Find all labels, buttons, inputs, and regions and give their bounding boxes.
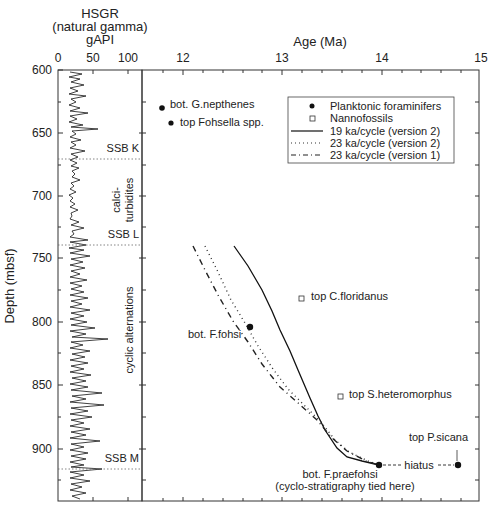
ssb-m-label: SSB M <box>105 452 139 464</box>
depth-tick-600: 600 <box>32 63 52 77</box>
marker-top-fohsella <box>168 120 173 125</box>
depth-tick-800: 800 <box>32 315 52 329</box>
age-axis-title: Age (Ma) <box>293 34 346 49</box>
depth-axis-title: Depth (mbsf) <box>2 248 17 323</box>
ssb-k-label: SSB K <box>107 142 140 154</box>
depth-tick-750: 750 <box>32 251 52 265</box>
label-cyclo-tied: (cyclo-stratigraphy tied here) <box>275 480 414 492</box>
label-g-nepthenes: bot. G.nepthenes <box>170 98 255 110</box>
label-top-c-floridanus: top C.floridanus <box>311 290 389 302</box>
label-bot-f-praefohsi: bot. F.praefohsi <box>302 468 377 480</box>
marker-top-s-heteromorphus <box>338 394 343 399</box>
curve-19ka-v2 <box>234 246 379 465</box>
marker-g-nepthenes <box>159 105 165 111</box>
marker-bot-f-fohsi <box>247 324 253 330</box>
age-depth-chart: HSGR (natural gamma) gAPI 0 50 100 Age (… <box>0 0 489 508</box>
age-tick-15: 15 <box>474 51 488 65</box>
depth-tick-900: 900 <box>32 442 52 456</box>
gr-log-trace <box>69 72 108 499</box>
legend-19ka-v2-label: 19 ka/cycle (version 2) <box>330 125 440 137</box>
label-top-p-sicana: top P.sicana <box>409 431 469 443</box>
depth-tick-650: 650 <box>32 126 52 140</box>
age-tick-13: 13 <box>275 51 289 65</box>
legend-23ka-v1-label: 23 ka/cycle (version 1) <box>330 149 440 161</box>
nannofossil-markers <box>299 296 343 399</box>
ssb-l-label: SSB L <box>108 228 139 240</box>
age-tick-14: 14 <box>375 51 389 65</box>
legend-nannofossil-icon <box>310 116 315 121</box>
legend-23ka-v2-label: 23 ka/cycle (version 2) <box>330 137 440 149</box>
legend: Planktonic foraminifers Nannofossils 19 … <box>288 97 454 163</box>
cyclic-alternations-label: cyclic alternations <box>123 286 135 373</box>
svg-text:calci-: calci- <box>110 187 122 213</box>
depth-tick-850: 850 <box>32 378 52 392</box>
depth-tick-700: 700 <box>32 189 52 203</box>
label-bot-f-fohsi: bot. F.fohsi <box>188 328 241 340</box>
hiatus-label: hiatus <box>404 459 434 471</box>
svg-text:turbidites: turbidites <box>123 177 135 222</box>
gr-tick-100: 100 <box>118 51 138 65</box>
gr-tick-50: 50 <box>86 51 100 65</box>
gr-tick-0: 0 <box>55 51 62 65</box>
label-top-fohsella: top Fohsella spp. <box>180 116 264 128</box>
label-top-s-heteromorphus: top S.heteromorphus <box>349 388 452 400</box>
marker-top-c-floridanus <box>299 296 304 301</box>
calciturbidites-label: calci- turbidites <box>110 177 135 222</box>
gr-title-3: gAPI <box>86 32 114 47</box>
marker-top-p-sicana <box>455 462 461 468</box>
legend-planktonic-label: Planktonic foraminifers <box>330 100 442 112</box>
legend-nannofossil-label: Nannofossils <box>330 112 393 124</box>
legend-planktonic-icon <box>310 104 315 109</box>
age-tick-12: 12 <box>176 51 190 65</box>
